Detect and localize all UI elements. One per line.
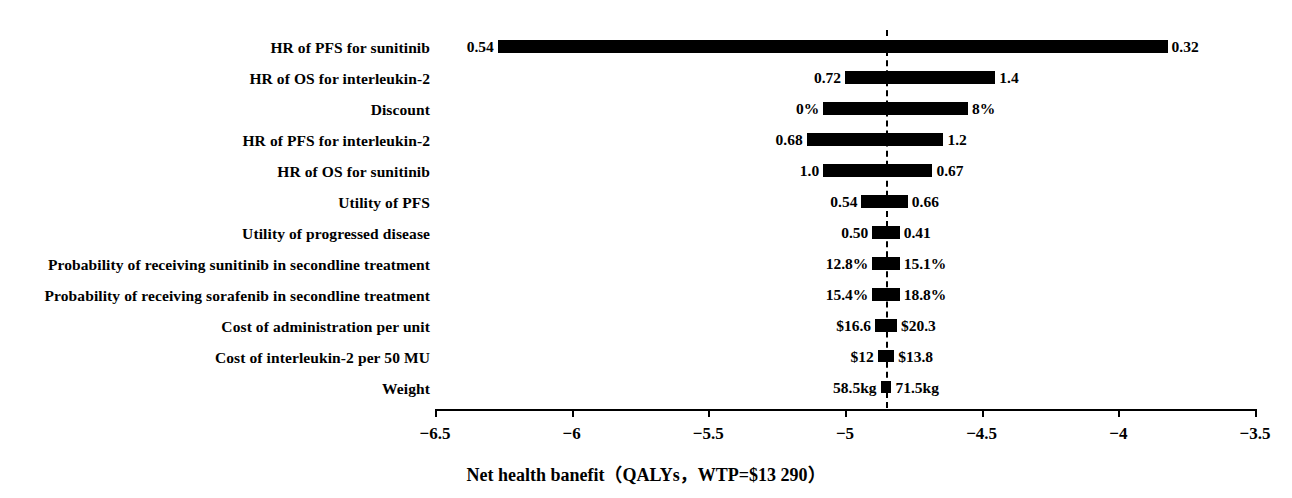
x-axis-tick-label: −4.5	[966, 425, 997, 442]
bar-high-value-label: 71.5kg	[895, 380, 939, 396]
bar-low-value-label: $16.6	[0, 318, 871, 334]
bar-low-value-label: 0%	[0, 101, 819, 117]
x-axis-tick	[845, 409, 847, 417]
x-axis-tick	[435, 409, 437, 417]
bar-low-value-label: 15.4%	[0, 287, 868, 303]
bar-high-value-label: 1.2	[947, 132, 966, 148]
bar-segment	[861, 195, 907, 208]
bar-segment	[845, 71, 995, 84]
x-axis-tick-label: −6.5	[420, 425, 451, 442]
x-axis-tick	[1118, 409, 1120, 417]
bar-low-value-label: 0.72	[0, 70, 841, 86]
bar-low-value-label: 58.5kg	[0, 380, 877, 396]
bar-low-value-label: 1.0	[0, 163, 819, 179]
bar-segment	[823, 164, 932, 177]
x-axis-title: Net health banefit（QALYs，WTP=$13 290）	[0, 466, 1292, 484]
x-axis-tick	[708, 409, 710, 417]
bar-segment	[878, 350, 894, 362]
x-axis-tick	[572, 409, 574, 417]
bar-segment	[498, 40, 1168, 53]
bar-high-value-label: $13.8	[898, 349, 933, 365]
x-axis-tick	[1255, 409, 1257, 417]
bar-low-value-label: 12.8%	[0, 256, 868, 272]
bar-high-value-label: 1.4	[999, 70, 1018, 86]
bar-low-value-label: 0.50	[0, 225, 868, 241]
bar-high-value-label: 0.41	[904, 225, 931, 241]
bar-segment	[823, 102, 968, 115]
bar-segment	[807, 133, 944, 146]
x-axis-tick	[982, 409, 984, 417]
bar-high-value-label: 15.1%	[904, 256, 947, 272]
x-axis-tick-label: −5	[836, 425, 854, 442]
bar-segment	[872, 257, 899, 270]
bar-segment	[872, 288, 899, 301]
x-axis-tick-label: −3.5	[1240, 425, 1271, 442]
bar-segment	[881, 381, 892, 393]
bar-low-value-label: 0.68	[0, 132, 803, 148]
bar-high-value-label: 0.66	[912, 194, 939, 210]
bar-low-value-label: 0.54	[0, 39, 494, 55]
plot-area: 0.54 0.32 0.72 1.4 0% 8% 0.68 1.2 1.0 0.…	[0, 0, 1292, 420]
bar-high-value-label: 0.67	[936, 163, 963, 179]
bar-segment	[872, 226, 899, 239]
bar-low-value-label: 0.54	[0, 194, 857, 210]
bar-high-value-label: 18.8%	[904, 287, 947, 303]
x-axis-tick-label: −6	[563, 425, 581, 442]
bar-segment	[875, 319, 897, 332]
bar-high-value-label: $20.3	[901, 318, 936, 334]
x-axis-tick-label: −4	[1109, 425, 1127, 442]
tornado-diagram-figure: HR of PFS for sunitinib HR of OS for int…	[0, 0, 1292, 498]
bar-high-value-label: 8%	[972, 101, 995, 117]
bar-high-value-label: 0.32	[1172, 39, 1199, 55]
bar-low-value-label: $12	[0, 349, 874, 365]
x-axis-tick-label: −5.5	[693, 425, 724, 442]
